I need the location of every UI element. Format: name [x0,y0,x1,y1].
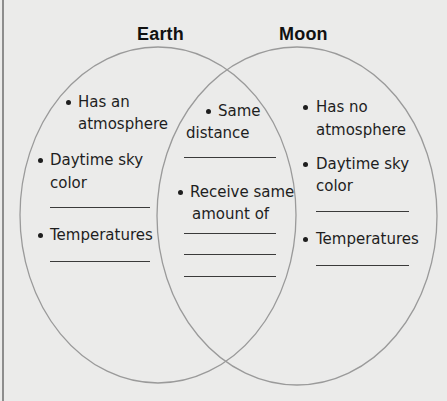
moon-title: Moon [279,25,328,43]
bullet-icon [38,233,43,238]
bullet-icon [303,237,308,242]
both-item-distance-line1: Same [218,100,261,122]
moon-item-sky-line2: color [316,175,353,197]
bullet-icon [66,100,71,105]
both-item-amount-line2: amount of [192,203,269,225]
bullet-icon [303,105,308,110]
moon-temperatures-answer-line[interactable] [316,265,409,266]
earth-sky-answer-line[interactable] [50,207,150,208]
both-item-amount-line1: Receive same [190,181,294,203]
earth-title: Earth [137,25,184,43]
both-distance-answer-line[interactable] [184,157,276,158]
both-amount-answer-line-3[interactable] [184,276,276,277]
moon-item-atmosphere-line2: atmosphere [316,119,406,141]
earth-item-atmosphere-line1: Has an [78,91,130,113]
both-item-distance-line2: distance [186,122,250,144]
moon-sky-answer-line[interactable] [316,211,409,212]
bullet-icon [178,190,183,195]
bullet-icon [38,158,43,163]
both-amount-answer-line-2[interactable] [184,254,276,255]
earth-item-temperatures: Temperatures [50,224,153,246]
bullet-icon [303,162,308,167]
earth-item-atmosphere-line2: atmosphere [78,113,168,135]
moon-item-sky-line1: Daytime sky [316,153,409,175]
both-amount-answer-line-1[interactable] [184,233,276,234]
moon-item-atmosphere-line1: Has no [316,96,368,118]
earth-item-sky-line2: color [50,172,87,194]
moon-item-temperatures: Temperatures [316,228,419,250]
earth-temperatures-answer-line[interactable] [50,261,150,262]
earth-item-sky-line1: Daytime sky [50,149,143,171]
bullet-icon [206,109,211,114]
